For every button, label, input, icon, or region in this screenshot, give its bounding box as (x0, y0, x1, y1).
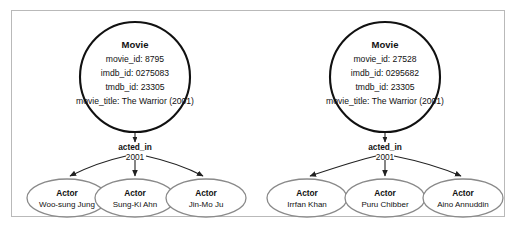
actor-node-sung-ki-ahn[interactable] (95, 179, 175, 217)
actor-node-aino-annuddin-label: Actor (452, 188, 474, 198)
movie-node-right-prop-tmdb-id: tmdb_id: 23305 (355, 82, 414, 92)
movie-node-left-label: Movie (122, 39, 149, 50)
actor-node-irrfan-khan[interactable] (267, 179, 347, 217)
movie-node-right-prop-movie-id: movie_id: 27528 (353, 54, 416, 64)
right-relationship-year: 2001 (376, 152, 395, 162)
actor-node-woo-sung-jung-name: Woo-sung Jung (39, 200, 95, 209)
movie-node-left-prop-movie-id: movie_id: 8795 (106, 54, 165, 64)
graph-diagram: Movie movie_id: 8795 imdb_id: 0275083 tm… (0, 0, 516, 233)
actor-node-jin-mo-ju-label: Actor (195, 188, 217, 198)
actor-node-aino-annuddin-name: Aino Annuddin (437, 200, 489, 209)
actor-node-jin-mo-ju[interactable] (166, 179, 246, 217)
actor-node-irrfan-khan-name: Irrfan Khan (287, 200, 327, 209)
actor-node-puru-chibber-label: Actor (374, 188, 396, 198)
movie-node-left-prop-imdb-id: imdb_id: 0275083 (101, 68, 170, 78)
movie-node-right-label: Movie (372, 39, 399, 50)
movie-node-left-prop-movie-title: movie_title: The Warrior (2001) (76, 96, 194, 106)
actor-node-aino-annuddin[interactable] (423, 179, 503, 217)
actor-node-woo-sung-jung-label: Actor (56, 188, 78, 198)
left-relationship-label: acted_in (118, 142, 152, 152)
actor-node-puru-chibber-name: Puru Chibber (361, 200, 408, 209)
left-relationship-year: 2001 (126, 152, 145, 162)
graph-canvas: Movie movie_id: 8795 imdb_id: 0275083 tm… (0, 0, 516, 233)
actor-node-sung-ki-ahn-name: Sung-Ki Ahn (113, 200, 157, 209)
actor-node-jin-mo-ju-name: Jin-Mo Ju (189, 200, 224, 209)
actor-node-puru-chibber[interactable] (345, 179, 425, 217)
movie-node-right-prop-movie-title: movie_title: The Warrior (2001) (326, 96, 444, 106)
actor-node-sung-ki-ahn-label: Actor (124, 188, 146, 198)
actor-node-irrfan-khan-label: Actor (296, 188, 318, 198)
right-relationship-label: acted_in (368, 142, 402, 152)
movie-node-left-prop-tmdb-id: tmdb_id: 23305 (105, 82, 164, 92)
movie-node-right-prop-imdb-id: imdb_id: 0295682 (351, 68, 420, 78)
